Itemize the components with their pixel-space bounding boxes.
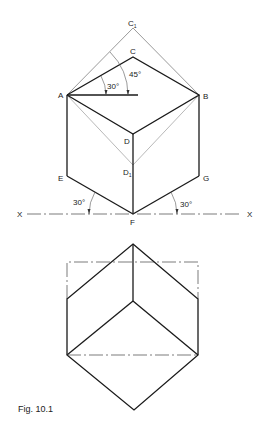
edge-e-f — [67, 176, 133, 214]
label-e: E — [58, 174, 63, 183]
inner-left-edge — [67, 301, 133, 355]
angle-label-30-left: 30° — [73, 198, 85, 207]
construction-line-b-c1 — [133, 28, 199, 95]
label-b: B — [203, 92, 208, 101]
label-f: F — [130, 218, 135, 227]
label-g: G — [203, 174, 209, 183]
construction-line-a-d1 — [67, 95, 133, 165]
angle-label-30-right: 30° — [180, 200, 192, 209]
arrow-icon — [88, 209, 91, 214]
construction-line-a-c1 — [67, 28, 133, 95]
label-c1: C1 — [128, 19, 137, 29]
bottom-orthographic-view — [67, 244, 198, 410]
label-d: D — [124, 137, 130, 146]
arrow-icon — [176, 209, 179, 214]
axis-label-x-right: X — [247, 210, 253, 219]
angle-label-45: 45° — [129, 70, 141, 79]
figure-caption: Fig. 10.1 — [18, 404, 53, 414]
construction-line-b-d1 — [133, 95, 199, 165]
inner-right-edge — [133, 301, 198, 355]
axis-label-x-left: X — [17, 210, 23, 219]
arrow-icon — [127, 90, 130, 95]
label-a: A — [58, 91, 64, 100]
isometric-construction-diagram: C1 C A B D D1 E G F 30° 45° 30° 30° X X … — [0, 0, 274, 431]
angle-label-30-top: 30° — [107, 82, 119, 91]
label-d1: D1 — [123, 168, 132, 178]
top-isometric-view: C1 C A B D D1 E G F 30° 45° 30° 30° X X — [17, 19, 253, 227]
label-c: C — [130, 47, 136, 56]
